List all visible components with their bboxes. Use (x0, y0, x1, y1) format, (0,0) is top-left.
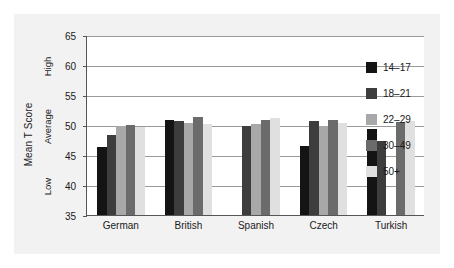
y-tick-mark (83, 216, 87, 217)
legend-label: 22–29 (383, 114, 411, 125)
y-tick-label: 40 (42, 181, 76, 192)
legend-swatch (366, 114, 377, 125)
bar (184, 123, 194, 215)
bar-group (300, 36, 348, 215)
x-tick-label: German (103, 220, 139, 231)
legend-swatch (366, 140, 377, 151)
y-tick-mark (83, 66, 87, 67)
y-tick-mark (83, 156, 87, 157)
chart-legend: 14–1718–2122–2930–4950+ (366, 54, 440, 184)
bar (300, 146, 310, 215)
chart-figure: Mean T Score High Average Low 3540455055… (14, 14, 440, 254)
bar (319, 126, 329, 215)
bar (338, 123, 348, 215)
y-tick-label: 65 (42, 31, 76, 42)
bar (242, 126, 252, 215)
y-tick-mark (83, 96, 87, 97)
bar (203, 124, 213, 215)
bar (270, 118, 280, 215)
y-tick-label: 55 (42, 91, 76, 102)
bar (251, 124, 261, 215)
bar (116, 126, 126, 215)
legend-label: 14–17 (383, 62, 411, 73)
bar (309, 121, 319, 215)
legend-swatch (366, 88, 377, 99)
legend-swatch (366, 166, 377, 177)
bar (261, 120, 271, 215)
y-tick-label: 45 (42, 151, 76, 162)
x-tick-label: British (174, 220, 202, 231)
legend-swatch (366, 62, 377, 73)
bar-group (97, 36, 145, 215)
bar (193, 117, 203, 215)
bar (328, 120, 338, 215)
legend-label: 30–49 (383, 140, 411, 151)
y-tick-mark (83, 126, 87, 127)
bar-group (232, 36, 280, 215)
legend-item: 18–21 (366, 80, 440, 106)
legend-item: 30–49 (366, 132, 440, 158)
bar (97, 147, 107, 215)
bar-group (165, 36, 213, 215)
y-tick-mark (83, 36, 87, 37)
y-axis-title: Mean T Score (20, 14, 38, 254)
legend-item: 50+ (366, 158, 440, 184)
y-tick-label: 35 (42, 211, 76, 222)
bar (135, 127, 145, 215)
bar (126, 125, 136, 215)
bar (107, 135, 117, 215)
y-tick-mark (83, 186, 87, 187)
legend-item: 14–17 (366, 54, 440, 80)
bar (165, 120, 175, 215)
y-tick-label: 50 (42, 121, 76, 132)
x-tick-label: Turkish (375, 220, 407, 231)
legend-item: 22–29 (366, 106, 440, 132)
bar (174, 121, 184, 215)
x-tick-label: Czech (309, 220, 337, 231)
y-tick-label: 60 (42, 61, 76, 72)
legend-label: 18–21 (383, 88, 411, 99)
legend-label: 50+ (383, 166, 400, 177)
x-tick-label: Spanish (238, 220, 274, 231)
